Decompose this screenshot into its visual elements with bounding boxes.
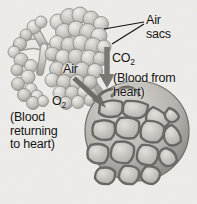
alveoli-diagram-figure: Air sacs CO2 Air O2 (Blood from heart) (…	[0, 0, 197, 204]
label-air-sacs: Air sacs	[146, 14, 171, 41]
label-o2-text: O	[52, 94, 62, 108]
label-co2-subscript: 2	[130, 57, 135, 67]
label-o2-subscript: 2	[62, 100, 67, 110]
label-o2: O2	[52, 95, 66, 110]
label-air: Air	[63, 63, 78, 77]
label-co2: CO2	[112, 52, 135, 67]
label-blood-returning-to-heart: (Blood returning to heart)	[10, 111, 58, 152]
label-co2-text: CO	[112, 51, 130, 65]
label-blood-from-heart: (Blood from heart)	[113, 72, 175, 99]
